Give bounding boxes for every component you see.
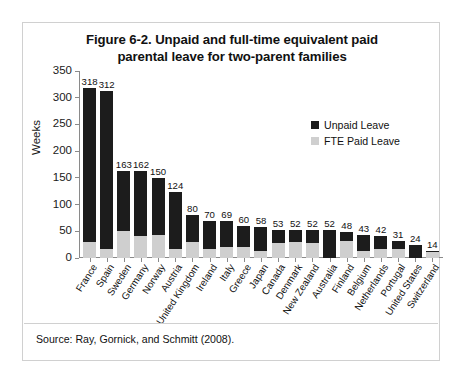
bar-group[interactable]: 43 [355,71,372,258]
bar-group[interactable]: 150 [150,71,167,258]
bar-value-label: 60 [238,214,249,225]
bar-group[interactable]: 70 [201,71,218,258]
bar-segment-unpaid[interactable] [220,221,233,247]
bar-group[interactable]: 31 [390,71,407,258]
bar-segment-paid[interactable] [134,236,147,258]
bar-segment-paid[interactable] [289,242,302,258]
bar-segment-paid[interactable] [254,251,267,258]
bar-segment-paid[interactable] [100,249,113,258]
bar-stack[interactable]: 58 [254,227,267,258]
bar-stack[interactable]: 24 [409,245,422,258]
bar-stack[interactable]: 318 [83,88,96,258]
bar-segment-paid[interactable] [357,251,370,258]
bar-group[interactable]: 52 [287,71,304,258]
bar-group[interactable]: 24 [407,71,424,258]
bar-segment-unpaid[interactable] [357,235,370,251]
bar-segment-paid[interactable] [169,249,182,258]
bar-group[interactable]: 69 [218,71,235,258]
y-tick-label: 50 [59,224,72,236]
bar-value-label: 312 [99,79,115,90]
bar-stack[interactable]: 31 [392,241,405,258]
bar-group[interactable]: 80 [184,71,201,258]
x-label-slot: Canada [270,260,287,340]
x-label-slot: Norway [150,260,167,340]
bar-segment-paid[interactable] [374,249,387,258]
bar-group[interactable]: 48 [338,71,355,258]
bar-segment-unpaid[interactable] [169,192,182,250]
bar-segment-unpaid[interactable] [306,230,319,242]
bar-value-label: 124 [167,180,183,191]
bar-stack[interactable]: 150 [152,178,165,258]
bar-group[interactable]: 318 [81,71,98,258]
y-tick-label: 250 [53,117,72,129]
bar-stack[interactable]: 42 [374,236,387,258]
bar-stack[interactable]: 14 [426,251,439,258]
x-label-slot: Sweden [115,260,132,340]
bar-stack[interactable]: 69 [220,221,233,258]
bar-group[interactable]: 53 [270,71,287,258]
bar-group[interactable]: 58 [252,71,269,258]
bar-value-label: 318 [82,76,98,87]
bar-segment-paid[interactable] [392,249,405,258]
bar-segment-unpaid[interactable] [117,171,130,231]
bar-group[interactable]: 14 [424,71,441,258]
bar-group[interactable]: 162 [132,71,149,258]
bar-segment-unpaid[interactable] [100,91,113,249]
y-tick-label: 150 [53,171,72,183]
bar-value-label: 48 [341,220,352,231]
bar-group[interactable]: 312 [98,71,115,258]
bar-segment-unpaid[interactable] [323,230,336,258]
bar-segment-paid[interactable] [237,247,250,258]
bar-stack[interactable]: 43 [357,235,370,258]
bar-stack[interactable]: 163 [117,171,130,258]
bar-value-label: 58 [256,215,267,226]
y-tick-label: 0 [66,251,72,263]
bar-value-label: 42 [376,224,387,235]
bar-segment-unpaid[interactable] [134,171,147,235]
bar-segment-paid[interactable] [340,241,353,258]
bar-segment-unpaid[interactable] [409,245,422,258]
bar-value-label: 14 [427,239,438,250]
bar-group[interactable]: 163 [115,71,132,258]
legend-item[interactable]: Unpaid Leave [311,119,400,131]
bar-segment-unpaid[interactable] [186,215,199,242]
bar-group[interactable]: 52 [321,71,338,258]
bar-segment-paid[interactable] [186,242,199,258]
bar-segment-unpaid[interactable] [289,230,302,242]
bar-segment-unpaid[interactable] [83,88,96,242]
bar-segment-unpaid[interactable] [340,232,353,241]
bar-stack[interactable]: 52 [306,230,319,258]
bar-stack[interactable]: 312 [100,91,113,258]
bar-segment-paid[interactable] [220,247,233,258]
bar-group[interactable]: 124 [167,71,184,258]
bar-group[interactable]: 42 [372,71,389,258]
bar-group[interactable]: 52 [304,71,321,258]
bar-segment-unpaid[interactable] [237,226,250,247]
bar-segment-unpaid[interactable] [392,241,405,248]
bar-stack[interactable]: 80 [186,215,199,258]
bar-stack[interactable]: 162 [134,171,147,258]
bar-segment-paid[interactable] [272,243,285,258]
x-label-slot: Switzerland [424,260,441,340]
bar-segment-paid[interactable] [306,243,319,258]
bar-stack[interactable]: 60 [237,226,250,258]
bar-stack[interactable]: 53 [272,230,285,258]
bar-stack[interactable]: 124 [169,192,182,258]
bar-segment-paid[interactable] [117,231,130,258]
bar-segment-unpaid[interactable] [203,221,216,249]
bar-segment-unpaid[interactable] [254,227,267,251]
bar-stack[interactable]: 70 [203,221,216,258]
bar-segment-unpaid[interactable] [374,236,387,250]
bar-segment-unpaid[interactable] [272,230,285,243]
bar-stack[interactable]: 52 [323,230,336,258]
bar-segment-paid[interactable] [83,242,96,258]
source-divider [24,323,438,324]
bar-stack[interactable]: 48 [340,232,353,258]
bar-segment-unpaid[interactable] [152,178,165,235]
bar-segment-paid[interactable] [152,235,165,259]
x-label-slot: France [81,260,98,340]
bar-segment-paid[interactable] [203,249,216,258]
legend-item[interactable]: FTE Paid Leave [311,135,400,147]
bar-stack[interactable]: 52 [289,230,302,258]
bar-group[interactable]: 60 [235,71,252,258]
